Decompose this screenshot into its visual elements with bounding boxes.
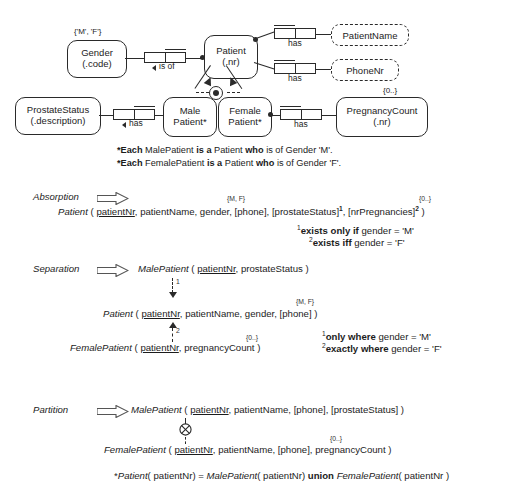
absorption-note-1-bold: exists only if: [301, 225, 359, 236]
partition-union-patient-arg: ( patientNr) =: [148, 470, 207, 481]
partition-arrow-icon: [97, 405, 129, 418]
partition-link-bottom: [185, 437, 186, 444]
entity-pregnancy-count-ref: (.nr): [373, 117, 390, 128]
separation-patient-constraint: {M, F}: [296, 298, 314, 305]
role-patient-phone-right: [296, 64, 316, 73]
partition-male-schema: MalePatient ( patientNr, patientName, [p…: [131, 404, 404, 417]
stage-label-partition: Partition: [33, 404, 68, 415]
connector-pred-pregnancycount: [322, 115, 336, 116]
separation-patient-table: Patient: [103, 308, 133, 319]
entity-gender-ref: (.code): [82, 59, 112, 70]
footnote-2-each: Each: [121, 158, 143, 168]
partition-union-male-arg: ( patientNr): [257, 470, 308, 481]
absorption-primary-key: patientNr: [96, 206, 134, 217]
absorption-note-2-bold: exists iff: [313, 237, 352, 248]
absorption-section: Absorption {M, F} {0..} Patient ( patien…: [0, 190, 510, 255]
entity-pregnancy-count[interactable]: PregnancyCount (.nr): [336, 97, 428, 137]
entity-female-patient-line2: Patient*: [228, 117, 261, 128]
connector-pred-malepatient: [155, 115, 163, 116]
entity-male-patient-line2: Patient*: [173, 117, 206, 128]
absorption-arrow-icon: [97, 192, 129, 205]
footnote-2-cond: is of Gender 'F'.: [274, 158, 341, 168]
predicate-label-is-of: is of: [159, 61, 175, 71]
absorption-columns-2: , [nrPregnancies]: [343, 206, 416, 217]
footnote-1-who: who: [245, 145, 263, 155]
footnote-1-subject: MalePatient: [143, 145, 197, 155]
gender-value-constraint: {'M', 'F'}: [74, 27, 101, 36]
connector-hasphone-valuetype: [316, 69, 331, 70]
predicate-label-prostate-has: has: [129, 118, 143, 128]
absorption-note-2: 2exists iff gender = 'F': [309, 236, 405, 250]
separation-male-pk: patientNr: [197, 263, 235, 274]
partition-male-table: MalePatient: [131, 404, 182, 415]
absorption-gender-constraint: {M, F}: [227, 195, 245, 202]
partition-female-constraint: {0..}: [330, 435, 342, 442]
absorption-note-2-rest: gender = 'F': [352, 237, 405, 248]
separation-note-2: 2exactly where gender = 'F': [322, 342, 442, 356]
separation-patient-schema: Patient ( patientNr, patientName, gender…: [103, 308, 317, 321]
orm-diagram: {'M', 'F'} Gender (.code) is of Patient …: [0, 0, 510, 180]
predicate-label-has-phone: has: [288, 73, 302, 83]
separation-subset-link-1: [172, 278, 173, 293]
separation-male-table: MalePatient: [138, 263, 189, 274]
stage-label-absorption: Absorption: [33, 191, 79, 202]
separation-female-pk: patientNr: [140, 342, 178, 353]
partition-union-note: *Patient( patientNr) = MalePatient( pati…: [114, 470, 449, 483]
entity-female-patient[interactable]: Female Patient*: [218, 97, 272, 137]
xor-link-left: [196, 92, 209, 93]
value-type-phone-nr-label: PhoneNr: [346, 65, 384, 76]
stage-label-separation: Separation: [33, 263, 79, 274]
partition-male-columns: , patientName, [phone], [prostateStatus]…: [229, 404, 404, 415]
footnote-2-super: Patient: [222, 158, 256, 168]
predicate-label-pregnancy-has: has: [294, 119, 308, 129]
pregnancy-value-constraint: {0..}: [383, 86, 397, 95]
connector-patient-hasname: [256, 31, 275, 39]
footnote-1-each: Each: [121, 145, 143, 155]
separation-subset-arrow-1: [169, 292, 177, 298]
predicate-label-has-name: has: [288, 38, 302, 48]
value-type-phone-nr[interactable]: PhoneNr: [331, 59, 399, 81]
role-patient-name-left: [275, 29, 296, 38]
entity-patient-ref: (.nr): [222, 57, 239, 68]
uniqueness-bar-has-phone: [274, 60, 295, 61]
entity-gender[interactable]: Gender (.code): [67, 40, 127, 78]
separation-female-table: FemalePatient: [70, 342, 132, 353]
separation-subset-link-2: [172, 328, 173, 342]
value-type-patient-name-label: PatientName: [343, 30, 398, 41]
partition-female-table: FemalePatient: [104, 444, 166, 455]
separation-section: Separation MalePatient ( patientNr, pros…: [0, 262, 510, 372]
separation-female-constraint: {0..}: [246, 334, 258, 341]
footnote-2-isa: is a: [207, 158, 222, 168]
role-patient-phone-left: [275, 64, 296, 73]
connector-prostate-pred: [99, 115, 113, 116]
connector-hasname-valuetype: [316, 34, 331, 35]
separation-arrow-icon: [97, 264, 129, 277]
partition-female-columns: , patientName, [phone], pregnancyCount ): [213, 444, 392, 455]
absorption-columns: , patientName, gender, [phone], [prostat…: [135, 206, 339, 217]
separation-arrow-label-2: 2: [176, 327, 180, 334]
separation-arrow-label-1: 1: [176, 278, 180, 285]
separation-male-columns: , prostateStatus ): [236, 263, 309, 274]
partition-section: Partition MalePatient ( patientNr, patie…: [0, 403, 510, 498]
footnote-1-cond: is of Gender 'M'.: [264, 145, 333, 155]
uniqueness-bar-pregnancy-has: [280, 106, 301, 107]
uniqueness-bar-gender-is-of: [165, 49, 186, 50]
separation-patient-columns: , patientName, gender, [phone] ): [180, 308, 318, 319]
absorption-pregnancies-constraint: {0..}: [419, 195, 431, 202]
separation-note-2-bold: exactly where: [326, 343, 389, 354]
partition-male-pk: patientNr: [190, 404, 228, 415]
diagram-footnote-1: *Each MalePatient is a Patient who is of…: [117, 145, 332, 155]
xor-link-right: [227, 92, 240, 93]
partition-union-male: MalePatient: [207, 470, 258, 481]
absorption-table-name: Patient: [58, 206, 88, 217]
separation-male-schema: MalePatient ( patientNr, prostateStatus …: [138, 263, 309, 276]
value-type-patient-name[interactable]: PatientName: [331, 24, 409, 46]
entity-prostate-status[interactable]: ProstateStatus (.description): [15, 97, 101, 135]
absorption-schema: Patient ( patientNr, patientName, gender…: [58, 205, 425, 219]
entity-male-patient[interactable]: Male Patient*: [163, 97, 217, 137]
separation-male-open: (: [189, 263, 198, 274]
footnote-1-super: Patient: [212, 145, 246, 155]
separation-female-schema: FemalePatient ( patientNr, pregnancyCoun…: [70, 342, 260, 355]
role-patient-name-right: [296, 29, 316, 38]
role-pregnancy-right: [302, 110, 322, 119]
